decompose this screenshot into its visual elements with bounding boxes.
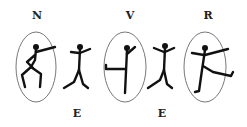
stick-figures-diagram (0, 0, 247, 127)
stick-figure-3 (106, 45, 135, 93)
stick-figure-4 (148, 43, 174, 88)
stick-figure-1 (22, 44, 55, 87)
stick-figure-2 (64, 44, 90, 88)
ellipse-1 (16, 32, 56, 102)
stick-figure-5 (192, 45, 233, 92)
